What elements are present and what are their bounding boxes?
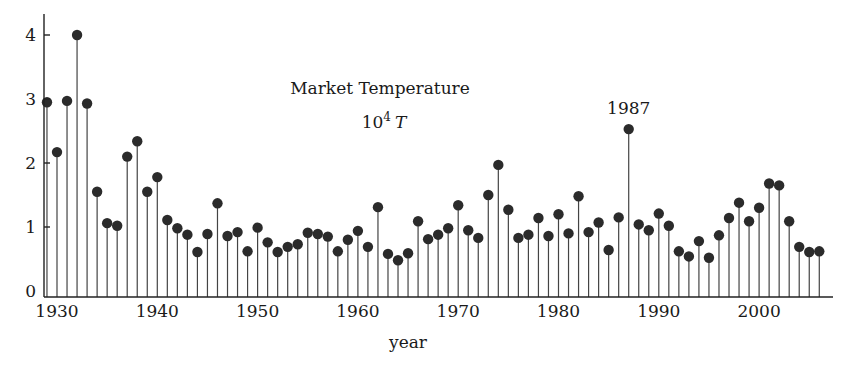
- data-point: [563, 228, 573, 238]
- y-tick-label: 3: [25, 89, 36, 109]
- y-axis-ticks: 01234: [25, 25, 50, 301]
- data-point: [413, 216, 423, 226]
- data-point: [92, 187, 102, 197]
- x-tick-label: 1960: [336, 301, 379, 321]
- x-tick-label: 1990: [637, 301, 680, 321]
- data-point: [674, 246, 684, 256]
- data-point: [343, 235, 353, 245]
- chart-title: Market Temperature: [290, 78, 470, 98]
- data-point: [624, 124, 634, 134]
- data-point: [272, 247, 282, 257]
- data-point: [724, 213, 734, 223]
- data-point: [192, 247, 202, 257]
- data-point: [232, 227, 242, 237]
- data-point: [162, 215, 172, 225]
- data-point: [513, 233, 523, 243]
- data-point: [52, 147, 62, 157]
- data-point: [182, 229, 192, 239]
- x-axis-label: year: [388, 332, 428, 352]
- x-tick-label: 1930: [35, 301, 78, 321]
- data-point: [583, 227, 593, 237]
- y-tick-label: 2: [25, 153, 36, 173]
- data-point: [373, 202, 383, 212]
- data-point: [353, 226, 363, 236]
- data-point: [573, 191, 583, 201]
- data-point: [383, 249, 393, 259]
- data-point: [142, 187, 152, 197]
- x-tick-label: 1950: [236, 301, 279, 321]
- data-point: [152, 172, 162, 182]
- data-point: [794, 242, 804, 252]
- data-point: [433, 229, 443, 239]
- y-tick-label: 0: [25, 281, 36, 301]
- data-point: [654, 208, 664, 218]
- data-point: [282, 242, 292, 252]
- data-point: [764, 178, 774, 188]
- data-point: [814, 246, 824, 256]
- data-point: [122, 151, 132, 161]
- data-point: [694, 236, 704, 246]
- data-point: [664, 221, 674, 231]
- x-tick-label: 1980: [537, 301, 580, 321]
- data-point: [82, 98, 92, 108]
- data-point: [403, 248, 413, 258]
- data-point: [453, 200, 463, 210]
- data-point: [333, 246, 343, 256]
- data-point: [493, 160, 503, 170]
- data-point: [102, 218, 112, 228]
- data-point: [303, 228, 313, 238]
- data-point: [423, 234, 433, 244]
- x-tick-label: 2000: [737, 301, 780, 321]
- data-point: [132, 136, 142, 146]
- annotation-1987: 1987: [607, 98, 650, 118]
- data-point: [613, 212, 623, 222]
- x-axis-ticks: 19301940195019601970198019902000: [35, 301, 780, 321]
- data-point: [293, 239, 303, 249]
- data-point: [634, 219, 644, 229]
- subtitle-base: 10: [362, 112, 384, 132]
- x-tick-label: 1970: [437, 301, 480, 321]
- data-point: [704, 253, 714, 263]
- data-point: [393, 255, 403, 265]
- data-point: [603, 245, 613, 255]
- market-temperature-stem-chart: 01234 19301940195019601970198019902000 M…: [0, 0, 848, 368]
- data-point: [463, 225, 473, 235]
- data-point: [593, 217, 603, 227]
- data-point: [774, 180, 784, 190]
- data-point: [72, 30, 82, 40]
- data-point: [684, 251, 694, 261]
- data-point: [543, 231, 553, 241]
- data-point: [313, 229, 323, 239]
- data-point: [323, 231, 333, 241]
- y-tick-label: 4: [25, 25, 36, 45]
- data-point: [172, 223, 182, 233]
- data-point: [242, 246, 252, 256]
- data-point: [62, 96, 72, 106]
- data-point: [262, 237, 272, 247]
- data-point: [483, 190, 493, 200]
- chart-subtitle: 104T: [362, 110, 408, 132]
- data-point: [553, 209, 563, 219]
- data-point: [644, 225, 654, 235]
- data-stems: [42, 30, 825, 297]
- data-point: [744, 216, 754, 226]
- data-point: [804, 247, 814, 257]
- data-point: [714, 230, 724, 240]
- data-point: [533, 213, 543, 223]
- data-point: [734, 197, 744, 207]
- data-point: [784, 216, 794, 226]
- data-point: [503, 205, 513, 215]
- data-point: [252, 222, 262, 232]
- subtitle-exponent: 4: [383, 110, 391, 124]
- data-point: [473, 233, 483, 243]
- data-point: [222, 231, 232, 241]
- subtitle-variable: T: [395, 112, 408, 132]
- data-point: [112, 221, 122, 231]
- data-point: [443, 223, 453, 233]
- data-point: [363, 242, 373, 252]
- data-point: [202, 229, 212, 239]
- data-point: [212, 198, 222, 208]
- y-tick-label: 1: [25, 217, 36, 237]
- data-point: [523, 229, 533, 239]
- data-point: [754, 203, 764, 213]
